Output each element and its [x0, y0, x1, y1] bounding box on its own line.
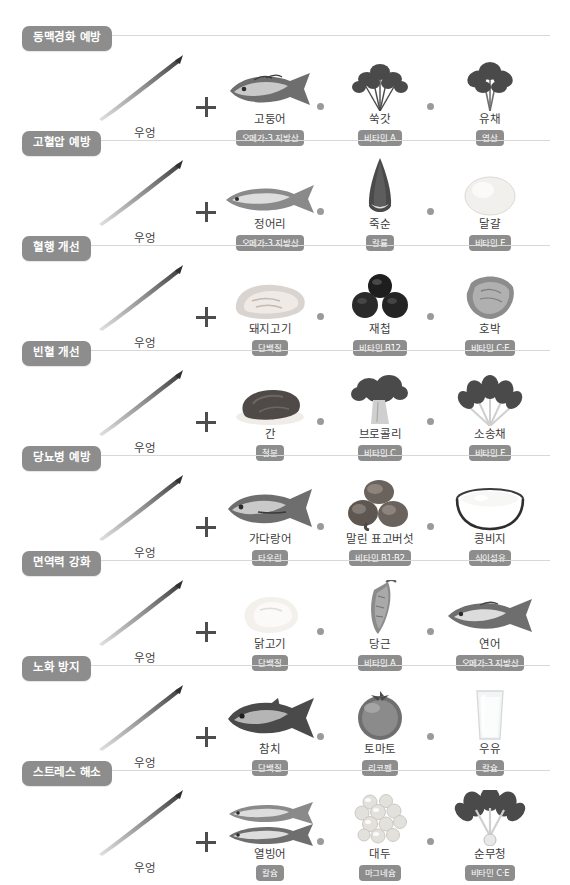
food-item[interactable]: 간철분: [210, 370, 330, 461]
base-food-name: 우엉: [85, 547, 205, 560]
separator-dot-icon: [427, 103, 434, 110]
tuna-fish-icon: [222, 695, 318, 741]
capelin-fish-icon: [223, 800, 317, 846]
food-item[interactable]: 당근비타민 A: [320, 580, 440, 671]
benefit-row: 동맥경화 예방 우엉 고둥어오메가-3 지방산: [0, 35, 570, 140]
food-item[interactable]: 고둥어오메가-3 지방산: [210, 55, 330, 146]
base-food-item: 우엉: [85, 594, 205, 665]
food-name: 당근: [320, 638, 440, 651]
food-item[interactable]: 대두마그네슘: [320, 790, 440, 881]
burdock-root-icon: [95, 368, 190, 438]
food-item[interactable]: 유채엽산: [430, 55, 550, 146]
food-item[interactable]: 열빙어칼슘: [210, 790, 330, 881]
food-item[interactable]: 브로콜리비타민 C: [320, 370, 440, 461]
food-name: 정어리: [210, 218, 330, 231]
food-item[interactable]: 말린 표고버섯비타민 B1·B2: [320, 475, 440, 566]
food-name: 소송채: [430, 428, 550, 441]
food-name: 죽순: [320, 218, 440, 231]
separator-dot-icon: [427, 523, 434, 530]
separator-dot-icon: [427, 838, 434, 845]
food-item[interactable]: 순무청비타민 C·E: [430, 790, 550, 881]
food-name: 우유: [430, 743, 550, 756]
benefit-row: 당뇨병 예방 우엉 가다랑어타우린 말린 표고버섯비: [0, 455, 570, 560]
milk-glass-icon: [471, 689, 509, 741]
food-item[interactable]: 닭고기단백질: [210, 580, 330, 671]
bonito-fish-icon: [224, 487, 316, 531]
separator-dot-icon: [427, 313, 434, 320]
nutrient-badge: 비타민 C·E: [465, 865, 516, 881]
food-name: 대두: [320, 848, 440, 861]
food-name: 고둥어: [210, 113, 330, 126]
pumpkin-slice-icon: [461, 271, 519, 321]
food-item[interactable]: 참치단백질: [210, 685, 330, 776]
food-name: 열빙어: [210, 848, 330, 861]
food-item[interactable]: 돼지고기단백질: [210, 265, 330, 356]
base-food-item: 우엉: [85, 489, 205, 560]
food-item[interactable]: 정어리오메가-3 지방산: [210, 160, 330, 251]
food-combination-strip: 우엉 참치단백질 토마토리코펜 우유칼슘: [0, 665, 570, 770]
separator-dot-icon: [317, 208, 324, 215]
base-food-item: 우엉: [85, 384, 205, 455]
food-name: 토마토: [320, 743, 440, 756]
base-food-name: 우엉: [85, 652, 205, 665]
food-item[interactable]: 달걀비타민 E: [430, 160, 550, 251]
burdock-root-icon: [95, 158, 190, 228]
burdock-root-icon: [95, 788, 190, 858]
separator-dot-icon: [317, 628, 324, 635]
food-item[interactable]: 연어오메가-3 지방산: [430, 580, 550, 671]
nutrient-badge: 마그네슘: [359, 865, 402, 881]
base-food-item: 우엉: [85, 804, 205, 875]
separator-dot-icon: [427, 733, 434, 740]
benefit-row: 스트레스 해소 우엉 열빙어칼슘: [0, 770, 570, 875]
komatsuna-greens-icon: [452, 374, 528, 426]
food-name: 말린 표고버섯: [320, 533, 440, 546]
mackerel-fish-icon: [224, 67, 316, 111]
food-item[interactable]: 가다랑어타우린: [210, 475, 330, 566]
food-combination-strip: 우엉 고둥어오메가-3 지방산 쑥갓비타민 A: [0, 35, 570, 140]
burdock-root-icon: [95, 263, 190, 333]
food-combination-strip: 우엉 돼지고기단백질 재첩비타민 B12 호박비타민 C·E: [0, 245, 570, 350]
food-item[interactable]: 죽순칼륨: [320, 160, 440, 251]
burdock-root-icon: [95, 683, 190, 753]
food-item[interactable]: 콩비지식이섬유: [430, 475, 550, 566]
nutrient-badge: 칼슘: [256, 865, 283, 881]
food-combination-strip: 우엉 간철분 브로콜리비타민 C: [0, 350, 570, 455]
food-item[interactable]: 쑥갓비타민 A: [320, 55, 440, 146]
food-name: 달걀: [430, 218, 550, 231]
base-food-name: 우엉: [85, 232, 205, 245]
benefit-row: 고혈압 예방 우엉 정어리오메가-3 지방산 죽순칼륨 달걀비타민 E: [0, 140, 570, 245]
base-food-name: 우엉: [85, 337, 205, 350]
separator-dot-icon: [317, 523, 324, 530]
base-food-item: 우엉: [85, 699, 205, 770]
separator-dot-icon: [317, 103, 324, 110]
separator-dot-icon: [317, 838, 324, 845]
liver-meat-icon: [233, 386, 307, 426]
food-item[interactable]: 우유칼슘: [430, 685, 550, 776]
food-name: 돼지고기: [210, 323, 330, 336]
separator-dot-icon: [317, 733, 324, 740]
base-food-item: 우엉: [85, 279, 205, 350]
infographic-sheet: 동맥경화 예방 우엉 고둥어오메가-3 지방산: [0, 0, 570, 885]
marsh-clam-icon: [348, 273, 412, 321]
food-item[interactable]: 호박비타민 C·E: [430, 265, 550, 356]
base-food-name: 우엉: [85, 127, 205, 140]
benefit-row: 혈행 개선 우엉 돼지고기단백질 재첩비타민 B12: [0, 245, 570, 350]
food-item[interactable]: 토마토리코펜: [320, 685, 440, 776]
food-name: 유채: [430, 113, 550, 126]
salmon-fish-icon: [444, 596, 536, 636]
separator-dot-icon: [317, 313, 324, 320]
food-item[interactable]: 소송채비타민 E: [430, 370, 550, 461]
food-item[interactable]: 재첩비타민 B12: [320, 265, 440, 356]
food-combination-strip: 우엉 가다랑어타우린 말린 표고버섯비타민 B1·B2 콩비지식이섬유: [0, 455, 570, 560]
dried-shiitake-mushroom-icon: [345, 479, 415, 531]
food-combination-strip: 우엉 닭고기단백질 당근비타민 A 연어오메가-3 지방산: [0, 560, 570, 665]
food-name: 참치: [210, 743, 330, 756]
broccoli-icon: [349, 374, 411, 426]
base-food-item: 우엉: [85, 69, 205, 140]
food-combination-strip: 우엉 정어리오메가-3 지방산 죽순칼륨 달걀비타민 E: [0, 140, 570, 245]
food-name: 닭고기: [210, 638, 330, 651]
food-name: 간: [210, 428, 330, 441]
egg-icon: [463, 172, 517, 216]
okara-bowl-icon: [455, 487, 525, 531]
soybeans-icon: [348, 794, 412, 846]
